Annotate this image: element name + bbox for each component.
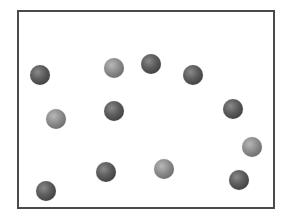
- particle-sphere-dark: [229, 170, 249, 190]
- particle-sphere-dark: [183, 65, 203, 85]
- particle-sphere-light: [46, 109, 66, 129]
- particle-sphere-dark: [223, 99, 243, 119]
- particle-sphere-dark: [36, 181, 56, 201]
- particle-sphere-light: [104, 58, 124, 78]
- diagram-canvas: [0, 0, 283, 216]
- particle-sphere-dark: [104, 101, 124, 121]
- particle-sphere-dark: [141, 54, 161, 74]
- particle-sphere-light: [242, 137, 262, 157]
- particle-sphere-light: [154, 159, 174, 179]
- particle-sphere-dark: [96, 162, 116, 182]
- particle-sphere-dark: [30, 65, 50, 85]
